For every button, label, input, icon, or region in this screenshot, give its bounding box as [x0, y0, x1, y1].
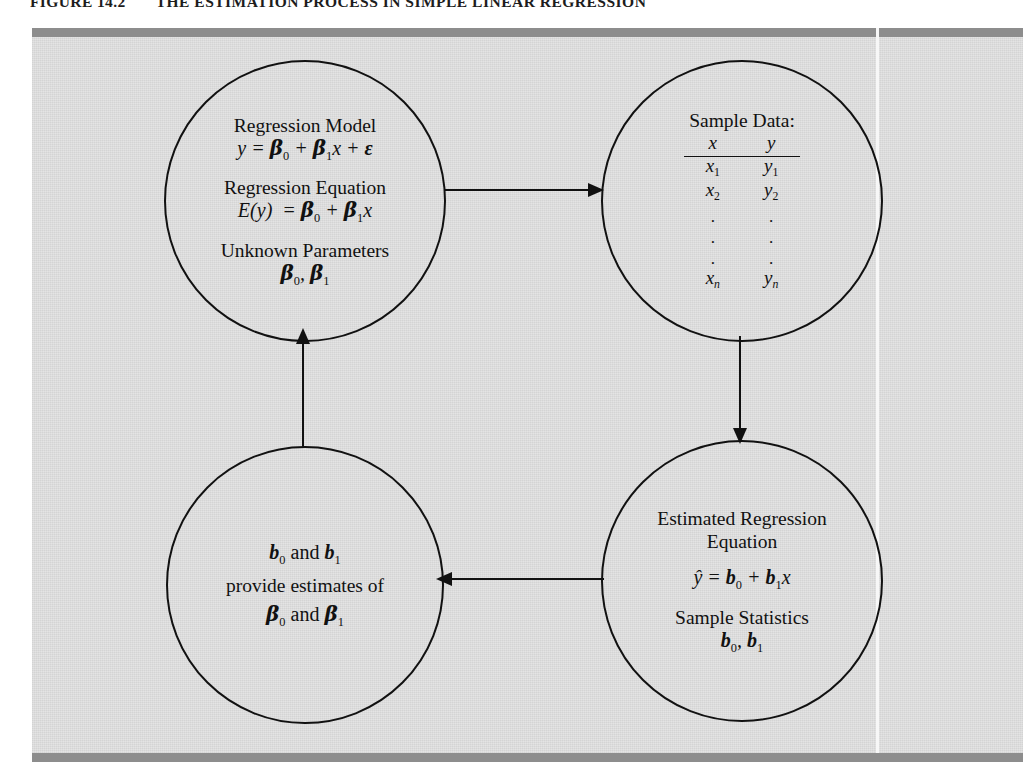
page-seam [876, 28, 879, 753]
estimates-line1: b0 and b1 [182, 541, 429, 567]
estimated-regression-heading-line1: Estimated Regression [617, 507, 867, 530]
figure-title: THE ESTIMATION PROCESS IN SIMPLE LINEAR … [156, 0, 647, 10]
plate-top-rule [32, 28, 1023, 37]
regression-equation-heading: Regression Equation [180, 176, 430, 199]
regression-model-heading: Regression Model [180, 114, 430, 137]
arrow-model-to-data-head [588, 183, 604, 197]
unknown-parameters-values: β0, β1 [180, 262, 430, 288]
plate-bottom-rule [32, 753, 1023, 762]
node-estimated-regression-equation: Estimated Regression Equation ŷ = b0 + b… [601, 440, 883, 722]
table-row: .. [684, 248, 801, 269]
unknown-parameters-heading: Unknown Parameters [180, 239, 430, 262]
arrow-estimated-to-estimates-line [448, 578, 604, 580]
arrow-data-to-estimated-head [733, 428, 747, 444]
regression-equation-formula: E(y) = β0 + β1x [180, 199, 430, 225]
figure-label: FIGURE 14.2 [30, 0, 126, 10]
estimated-regression-equation: ŷ = b0 + b1x [617, 566, 867, 592]
arrow-estimates-to-model-line [302, 336, 304, 448]
arrow-data-to-estimated-line [739, 336, 741, 440]
sample-data-col-y: y [742, 132, 800, 157]
sample-data-heading: Sample Data: [617, 109, 867, 132]
table-row: xn yn [684, 269, 801, 293]
node-estimates-statement: b0 and b1 provide estimates of β0 and β1 [166, 446, 444, 724]
estimates-line2: provide estimates of [182, 574, 429, 597]
arrow-estimated-to-estimates-head [436, 572, 452, 586]
figure-caption: FIGURE 14.2 THE ESTIMATION PROCESS IN SI… [30, 0, 990, 13]
table-row: .. [684, 227, 801, 248]
regression-model-equation: y = β0 + β1x + ε [180, 137, 430, 163]
sample-statistics-heading: Sample Statistics [617, 606, 867, 629]
sample-data-table: x y x1 y1 x2 y2 .. .. .. xn yn [684, 132, 801, 293]
arrow-model-to-data-line [444, 189, 592, 191]
node-regression-model: Regression Model y = β0 + β1x + ε Regres… [164, 60, 446, 342]
node-sample-data: Sample Data: x y x1 y1 x2 y2 .. .. .. [601, 60, 883, 342]
estimated-regression-heading-line2: Equation [617, 530, 867, 553]
estimates-line3: β0 and β1 [182, 603, 429, 629]
arrow-estimates-to-model-head [296, 328, 310, 344]
sample-statistics-values: b0, b1 [617, 629, 867, 655]
table-row: x2 y2 [684, 181, 801, 205]
table-row: x1 y1 [684, 156, 801, 181]
sample-data-col-x: x [684, 132, 742, 157]
table-row: .. [684, 206, 801, 227]
